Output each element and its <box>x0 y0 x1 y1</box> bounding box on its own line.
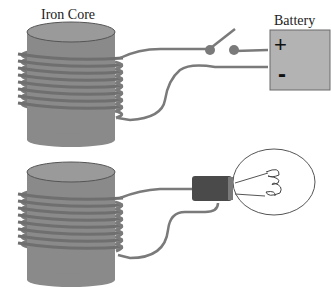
upper-core-top <box>27 22 115 42</box>
switch-contact-right <box>229 45 239 55</box>
wire-coil-to-bulb <box>120 189 193 198</box>
wire-bulb-to-coil <box>118 203 218 258</box>
light-bulb <box>192 149 315 215</box>
upper-electromagnet <box>18 22 123 147</box>
upper-wires <box>118 49 268 120</box>
switch <box>205 29 239 55</box>
battery-positive-terminal: + <box>274 34 287 56</box>
switch-lever <box>212 29 235 47</box>
bulb-base <box>192 176 232 201</box>
wire-battery-to-coil <box>118 66 268 120</box>
iron-core-label: Iron Core <box>41 8 95 22</box>
lower-electromagnet <box>18 162 123 287</box>
wire-switch-to-battery <box>235 50 268 51</box>
bulb-glass <box>233 149 315 215</box>
battery-label: Battery <box>274 14 315 28</box>
wire-to-switch <box>120 49 209 58</box>
battery-negative-terminal: - <box>278 62 286 86</box>
lower-core-top <box>27 162 115 182</box>
